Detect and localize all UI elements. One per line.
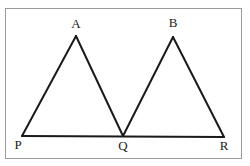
segment-pr-baseline xyxy=(22,136,224,137)
vertex-label-p: P xyxy=(10,138,26,151)
vertex-label-a: A xyxy=(68,17,84,30)
geometry-figure: A B P Q R xyxy=(0,0,250,166)
vertex-label-b: B xyxy=(165,16,181,29)
vertex-label-r: R xyxy=(216,139,232,152)
vertex-label-q: Q xyxy=(115,139,131,152)
